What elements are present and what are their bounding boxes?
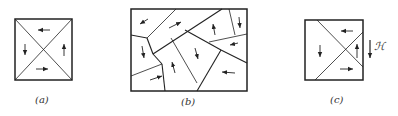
panel-a-label: (a) [35,94,49,105]
panel-a [15,19,72,80]
panel-b [131,9,247,91]
field-label: ℋ [374,40,387,53]
magnetic-domains-figure: (a) (b) [0,0,398,116]
panel-b-label: (b) [181,96,195,107]
panel-c [305,20,370,80]
panel-c-label: (c) [330,94,344,105]
